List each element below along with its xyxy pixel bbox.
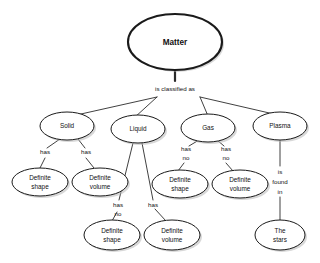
- plasma-label: Plasma: [269, 122, 291, 129]
- the-stars-line1: The: [274, 227, 285, 234]
- solid-definite-shape-line1: Definite: [29, 174, 51, 181]
- liquid-label: Liquid: [129, 125, 147, 133]
- node-gas[interactable]: Gas: [181, 114, 237, 144]
- node-liquid-definite-shape[interactable]: Definite shape: [84, 220, 142, 252]
- link-label-gas-has-1-line2: no: [183, 154, 190, 161]
- liquid-definite-volume-line2: volume: [162, 236, 183, 243]
- the-stars-line2: stars: [273, 236, 287, 243]
- node-gas-definite-shape[interactable]: Definite shape: [152, 170, 210, 200]
- gas-definite-shape-line2: shape: [171, 185, 189, 193]
- link-label-gas-has-2-line1: has: [221, 145, 231, 152]
- node-solid-definite-volume[interactable]: Definite volume: [72, 168, 130, 198]
- solid-definite-shape-line2: shape: [31, 183, 49, 191]
- node-plasma[interactable]: Plasma: [253, 112, 309, 142]
- link-label-liquid-has-1-line1: has: [113, 201, 123, 208]
- node-matter[interactable]: Matter: [128, 14, 224, 72]
- node-liquid[interactable]: Liquid: [111, 115, 167, 145]
- concept-map-canvas: Matter is classified as Solid Liquid Gas…: [0, 0, 320, 263]
- link-label-gas-has-2-line2: no: [223, 154, 230, 161]
- node-solid-definite-shape[interactable]: Definite shape: [12, 168, 70, 198]
- solid-definite-volume-line2: volume: [90, 183, 111, 190]
- gas-definite-volume-line1: Definite: [229, 176, 251, 183]
- edge-classified-to-solid: [72, 97, 157, 116]
- edge-liquid-to-has: [142, 143, 153, 200]
- gas-definite-volume-line2: volume: [230, 185, 251, 192]
- liquid-definite-shape-line2: shape: [103, 236, 121, 244]
- link-label-solid-has-1: has: [40, 148, 50, 155]
- link-label-gas-has-1-line1: has: [181, 145, 191, 152]
- solid-definite-volume-line1: Definite: [89, 174, 111, 181]
- link-label-plasma-line1: is: [278, 168, 282, 175]
- liquid-definite-volume-line1: Definite: [161, 227, 183, 234]
- node-the-stars[interactable]: The stars: [255, 220, 307, 252]
- gas-definite-shape-line1: Definite: [169, 176, 191, 183]
- node-liquid-definite-volume[interactable]: Definite volume: [144, 220, 202, 252]
- edge-classified-to-gas: [200, 97, 208, 116]
- edge-has-2-to-definite-volume: [86, 158, 94, 168]
- solid-label: Solid: [60, 122, 75, 129]
- gas-label: Gas: [202, 124, 214, 131]
- link-label-liquid-has-1-line2: no: [115, 210, 122, 217]
- liquid-definite-shape-line1: Definite: [101, 227, 123, 234]
- edge-hasno-2-to-definite-volume: [226, 163, 233, 171]
- link-label-plasma-line2: found: [272, 178, 288, 185]
- matter-label: Matter: [163, 38, 188, 47]
- node-solid[interactable]: Solid: [40, 112, 96, 142]
- link-label-is-classified-as: is classified as: [155, 85, 195, 92]
- link-label-solid-has-2: has: [81, 148, 91, 155]
- edge-classified-to-plasma: [200, 97, 278, 115]
- edge-has-1-to-definite-shape: [40, 158, 45, 168]
- link-label-liquid-has-2-line1: has: [148, 201, 158, 208]
- edge-has-to-definite-volume: [155, 209, 166, 221]
- link-label-plasma-line3: in: [278, 188, 283, 195]
- node-gas-definite-volume[interactable]: Definite volume: [212, 170, 270, 200]
